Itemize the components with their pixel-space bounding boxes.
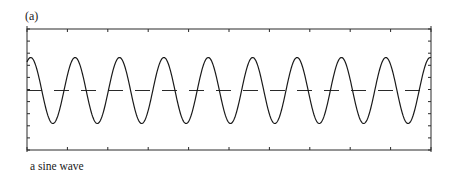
axis-ticks: [27, 26, 431, 152]
figure-caption: a sine wave: [30, 160, 84, 172]
plot-frame: [27, 29, 431, 150]
sine-plot: [0, 0, 451, 179]
